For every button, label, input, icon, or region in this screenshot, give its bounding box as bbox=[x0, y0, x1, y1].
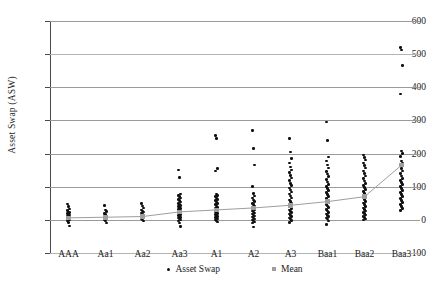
data-point bbox=[325, 223, 328, 226]
data-point bbox=[67, 221, 70, 224]
data-point bbox=[288, 137, 291, 140]
data-point bbox=[289, 151, 292, 154]
data-point bbox=[288, 221, 291, 224]
data-point bbox=[215, 137, 218, 140]
data-point bbox=[251, 129, 254, 132]
data-point bbox=[362, 219, 365, 222]
y-axis-title-label: Asset Swap (ASW) bbox=[7, 76, 17, 154]
dot-icon bbox=[167, 268, 170, 271]
mean-marker bbox=[288, 203, 293, 208]
mean-marker bbox=[214, 208, 219, 213]
square-icon bbox=[272, 267, 276, 271]
plot-area: AAAAa1Aa2Aa3A1A2A3Baa1Baa2Baa3 bbox=[50, 21, 420, 253]
data-point bbox=[288, 162, 291, 165]
data-point bbox=[290, 157, 293, 160]
legend-label: Mean bbox=[281, 264, 303, 274]
chart-legend: Asset SwapMean bbox=[50, 258, 420, 280]
mean-marker bbox=[362, 194, 367, 199]
data-point bbox=[178, 176, 181, 179]
data-point bbox=[399, 155, 402, 158]
data-point bbox=[179, 225, 182, 228]
mean-marker bbox=[325, 199, 330, 204]
data-point bbox=[216, 221, 219, 224]
data-point bbox=[252, 147, 255, 150]
asset-swap-scatter-chart: Asset Swap (ASW) -1000100200300400500600… bbox=[0, 0, 433, 288]
data-point bbox=[214, 170, 217, 173]
mean-marker bbox=[103, 215, 108, 220]
data-point bbox=[401, 64, 404, 67]
data-point bbox=[399, 93, 402, 96]
data-point bbox=[251, 185, 254, 188]
data-point bbox=[142, 220, 145, 223]
legend-label: Asset Swap bbox=[175, 264, 220, 274]
mean-marker bbox=[66, 216, 71, 221]
y-axis-title: Asset Swap (ASW) bbox=[0, 0, 24, 230]
data-point bbox=[68, 225, 71, 228]
mean-marker bbox=[399, 163, 404, 168]
data-point bbox=[399, 209, 402, 212]
data-point bbox=[325, 160, 328, 163]
data-point bbox=[327, 156, 330, 159]
mean-marker bbox=[177, 210, 182, 215]
data-point bbox=[214, 134, 217, 137]
data-point bbox=[326, 139, 329, 142]
data-point bbox=[326, 164, 329, 167]
legend-item-mean: Mean bbox=[272, 264, 303, 274]
data-point bbox=[289, 166, 292, 169]
mean-marker bbox=[140, 214, 145, 219]
legend-item-asset-swap: Asset Swap bbox=[167, 264, 220, 274]
mean-marker bbox=[251, 206, 256, 211]
data-point bbox=[103, 204, 106, 207]
